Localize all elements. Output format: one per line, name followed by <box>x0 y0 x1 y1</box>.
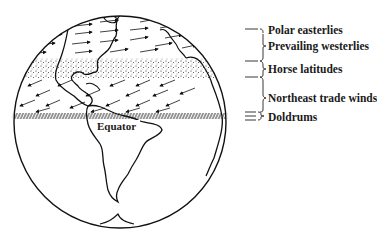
equator-hatch-edge <box>12 113 228 119</box>
legend-horse-latitudes: Horse latitudes <box>268 64 342 76</box>
florida-outline <box>86 83 100 90</box>
westerlies-arrows <box>30 19 196 54</box>
equator-label: Equator <box>97 121 136 132</box>
legend-polar-easterlies: Polar easterlies <box>268 25 343 37</box>
legend-northeast-trade-winds: Northeast trade winds <box>268 93 377 105</box>
europe-outline <box>160 29 186 58</box>
trade-wind-arrows <box>20 80 195 112</box>
antarctica-tip <box>100 214 134 224</box>
legend-brackets <box>245 29 266 120</box>
legend-doldrums: Doldrums <box>268 112 317 124</box>
legend-prevailing-westerlies: Prevailing westerlies <box>268 41 369 53</box>
